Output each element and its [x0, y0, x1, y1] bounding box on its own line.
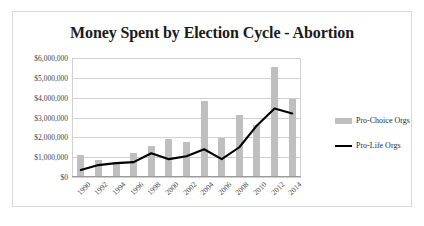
y-tick-label: $2,000,000	[34, 133, 68, 142]
gridline	[72, 137, 301, 138]
y-tick-label: $6,000,000	[34, 54, 68, 63]
bar	[218, 138, 225, 176]
plot-area: $0$1,000,000$2,000,000$3,000,000$4,000,0…	[72, 58, 301, 177]
y-tick-label: $1,000,000	[34, 153, 68, 162]
bar	[148, 146, 155, 176]
gridline	[72, 118, 301, 119]
gridline	[72, 98, 301, 99]
legend-label-pro-life: Pro-Life Orgs	[356, 141, 401, 150]
y-tick-label: $4,000,000	[34, 93, 68, 102]
bar	[95, 160, 102, 176]
line-swatch-icon	[335, 145, 352, 147]
legend-label-pro-choice: Pro-Choice Orgs	[356, 116, 410, 125]
y-tick-label: $0	[61, 173, 69, 182]
bar	[271, 67, 278, 176]
bar	[183, 142, 190, 176]
chart-frame: Money Spent by Election Cycle - Abortion…	[12, 11, 412, 207]
chart-legend: Pro-Choice Orgs Pro-Life Orgs	[335, 116, 410, 166]
bar	[253, 125, 260, 176]
legend-item-pro-choice: Pro-Choice Orgs	[335, 116, 410, 125]
gridline	[72, 78, 301, 79]
chart-title: Money Spent by Election Cycle - Abortion	[13, 24, 411, 42]
bar	[289, 99, 296, 176]
bar	[201, 101, 208, 176]
gridline	[72, 177, 301, 178]
bar	[130, 153, 137, 176]
bar	[113, 162, 120, 176]
bar	[165, 139, 172, 176]
gridline	[72, 58, 301, 59]
legend-item-pro-life: Pro-Life Orgs	[335, 141, 410, 150]
y-tick-label: $5,000,000	[34, 73, 68, 82]
bar-swatch-icon	[335, 118, 352, 124]
y-tick-label: $3,000,000	[34, 113, 68, 122]
bar	[77, 155, 84, 176]
bar	[236, 115, 243, 176]
